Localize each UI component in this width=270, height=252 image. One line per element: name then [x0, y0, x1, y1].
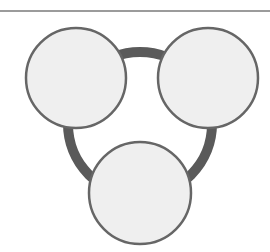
circle-node-top-right [158, 28, 258, 128]
circle-node-bottom [89, 142, 191, 244]
three-circle-diagram [0, 0, 270, 252]
circle-node-top-left [26, 28, 126, 128]
